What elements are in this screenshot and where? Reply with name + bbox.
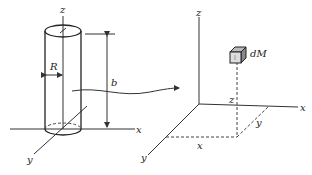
y-projection-line [237, 107, 268, 137]
connector-arrow [72, 88, 179, 94]
left-x-axis-label: x [136, 124, 142, 135]
left-y-axis [34, 106, 87, 154]
mass-element-cube [230, 47, 246, 63]
right-y-axis [148, 104, 199, 155]
height-label: b [111, 77, 117, 88]
right-x-axis-label: x [300, 102, 306, 113]
coord-y-label: y [255, 117, 262, 128]
coord-x-label: x [197, 140, 203, 151]
right-x-axis [199, 104, 298, 107]
left-y-axis-label: y [26, 154, 33, 165]
right-y-axis-label: y [140, 152, 147, 163]
left-z-axis-label: z [59, 4, 66, 15]
mass-element-diagram: z x y z x y dM [140, 7, 306, 163]
diagram-canvas: x y z R b z x y [0, 0, 312, 175]
cylinder-diagram: x y z R b [10, 4, 142, 165]
coord-z-label: z [228, 94, 235, 105]
right-z-axis-label: z [195, 7, 202, 18]
cylinder-bottom-front-arc [45, 129, 81, 135]
mass-element-label: dM [250, 48, 267, 59]
radius-label: R [49, 61, 58, 72]
